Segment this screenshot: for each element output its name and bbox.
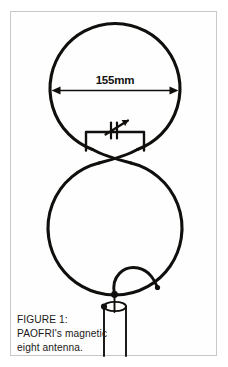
figure-caption: FIGURE 1: PAOFRI's magnetic eight antenn… — [17, 314, 107, 353]
dimension-label: 155mm — [96, 74, 135, 86]
dimension-arrow-left — [52, 87, 61, 95]
coupling-node-right — [155, 285, 160, 290]
lower-loop — [48, 163, 182, 295]
caption-line-1: FIGURE 1: — [17, 314, 68, 325]
upper-loop — [50, 24, 180, 150]
dimension-arrow-right — [170, 87, 179, 95]
diameter-dimension: 155mm — [52, 74, 179, 94]
coax-shield-node — [101, 303, 107, 309]
variable-capacitor-symbol — [106, 120, 129, 139]
magnetic-eight-antenna-diagram: 155mm FIGURE 1: PAOFRI's magnetic eight … — [0, 0, 228, 367]
capacitor-enclosure — [86, 132, 144, 151]
caption-line-3: eight antenna. — [17, 342, 83, 353]
caption-line-2: PAOFRI's magnetic — [17, 328, 107, 339]
coax-feedline — [101, 295, 126, 357]
figure-root: 155mm FIGURE 1: PAOFRI's magnetic eight … — [0, 0, 228, 367]
